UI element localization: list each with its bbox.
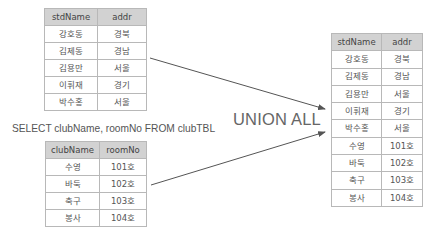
result-table: stdName addr 강호동 경북 김제동 경남 김용만 서울 이휘재 경기… <box>331 33 423 207</box>
table-cell: 이휘재 <box>332 103 382 120</box>
table-cell: 104호 <box>382 189 423 206</box>
column-header: addr <box>382 34 423 51</box>
table-cell: 김용만 <box>332 85 382 102</box>
arrow-from-club-table <box>151 132 325 185</box>
table-header-row: stdName addr <box>332 34 423 51</box>
table-cell: 축구 <box>332 172 382 189</box>
table-cell: 102호 <box>382 155 423 172</box>
table-cell: 바둑 <box>332 155 382 172</box>
table-row: 박수홍 서울 <box>332 120 423 137</box>
table-cell: 103호 <box>382 172 423 189</box>
table-row: 이휘재 경기 <box>332 103 423 120</box>
table-row: 강호동 경북 <box>332 51 423 68</box>
arrow-from-std-table <box>150 58 325 109</box>
table-row: 봉사 104호 <box>332 189 423 206</box>
table-cell: 서울 <box>382 85 423 102</box>
table-cell: 경남 <box>382 68 423 85</box>
table-cell: 수영 <box>332 137 382 154</box>
table-cell: 서울 <box>382 120 423 137</box>
table-row: 바둑 102호 <box>332 155 423 172</box>
union-all-label: UNION ALL <box>233 110 321 129</box>
table-cell: 봉사 <box>332 189 382 206</box>
table-cell: 101호 <box>382 137 423 154</box>
table-row: 김제동 경남 <box>332 68 423 85</box>
table-row: 축구 103호 <box>332 172 423 189</box>
table-cell: 경북 <box>382 51 423 68</box>
column-header: stdName <box>332 34 382 51</box>
table-cell: 강호동 <box>332 51 382 68</box>
table-row: 수영 101호 <box>332 137 423 154</box>
table-cell: 김제동 <box>332 68 382 85</box>
table-cell: 경기 <box>382 103 423 120</box>
table-row: 김용만 서울 <box>332 85 423 102</box>
table-cell: 박수홍 <box>332 120 382 137</box>
